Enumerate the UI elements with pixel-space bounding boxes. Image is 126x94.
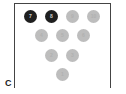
lane-frame-left xyxy=(14,3,15,88)
pin-3: 3 xyxy=(66,49,79,62)
pin-6: 6 xyxy=(77,29,90,42)
pin-2: 2 xyxy=(45,49,58,62)
lane-frame-top xyxy=(14,3,111,4)
diagram-label: C xyxy=(5,78,12,88)
pin-1: 1 xyxy=(56,68,69,81)
pin-10: 10 xyxy=(87,10,100,23)
pin-7: 7 xyxy=(24,10,37,23)
pin-5: 5 xyxy=(56,29,69,42)
pin-9: 9 xyxy=(66,10,79,23)
pin-4: 4 xyxy=(35,29,48,42)
lane-frame-right xyxy=(110,3,111,88)
pin-8: 8 xyxy=(45,10,58,23)
